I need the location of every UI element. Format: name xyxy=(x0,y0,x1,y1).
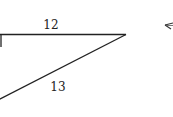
triangle-diagram: 12 13 xyxy=(0,0,173,117)
top-side-label: 12 xyxy=(43,18,58,32)
diagram-canvas: 12 13 xyxy=(0,0,173,117)
partial-triangle-fragment xyxy=(165,23,173,29)
hypotenuse-label: 13 xyxy=(50,80,65,94)
